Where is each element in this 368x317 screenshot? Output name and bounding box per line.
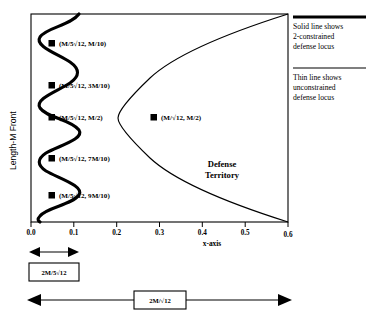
data-point-marker: [49, 82, 56, 89]
defense-territory-label-line2: Territory: [205, 170, 240, 180]
figure-container: 0.0 0.1 0.2 0.3 0.4 0.5 0.6 x-axis Lengt…: [0, 0, 368, 317]
data-point-label-4: (M/5√12, 9M/10): [59, 192, 110, 200]
x-tick-label-5: 0.5: [241, 229, 250, 237]
defense-territory-label-line1: Defense: [208, 159, 237, 169]
data-point-marker: [49, 40, 56, 47]
x-tick-label-2: 0.2: [112, 229, 121, 237]
data-point-label-2: (M/5√12, M/2): [59, 114, 103, 122]
data-point-label-3: (M/5√12, 7M/10): [59, 155, 110, 163]
x-tick-label-0: 0.0: [27, 229, 36, 237]
data-point-marker: [49, 192, 56, 199]
x-tick-label-4: 0.4: [198, 229, 207, 237]
x-tick-label-3: 0.3: [155, 229, 164, 237]
legend-thin-line3: defense locus: [293, 93, 334, 102]
x-axis-ticks: [31, 222, 288, 227]
data-point-label-0: (M/5√12, M/10): [59, 40, 107, 48]
x-axis-label: x-axis: [203, 239, 222, 248]
y-axis-label: Length-M Front: [8, 111, 18, 170]
narrow-span-annotation: 2M/5√12: [29, 247, 79, 281]
data-point-label-1: (M/5√12, 3M/10): [59, 82, 110, 90]
x-tick-label-6: 0.6: [284, 231, 293, 239]
wide-span-annotation: 2M/√12: [27, 291, 292, 309]
x-tick-label-1: 0.1: [69, 229, 78, 237]
data-point-marker: [49, 114, 56, 121]
legend-solid-line1: Solid line shows: [293, 22, 343, 31]
data-point-marker: [49, 155, 56, 162]
data-point-label-5: (M/√12, M/2): [161, 114, 202, 122]
legend-solid-line2: 2-constrained: [293, 32, 335, 41]
narrow-span-label: 2M/5√12: [42, 269, 68, 276]
legend-thin-line2: unconstrained: [293, 83, 336, 92]
wide-span-label: 2M/√12: [149, 297, 171, 304]
data-point-marker-center: [151, 114, 158, 121]
legend-solid-line3: defense locus: [293, 42, 334, 51]
legend-thin-line1: Thin line shows: [293, 73, 342, 82]
unconstrained-locus-curve: [118, 14, 288, 222]
